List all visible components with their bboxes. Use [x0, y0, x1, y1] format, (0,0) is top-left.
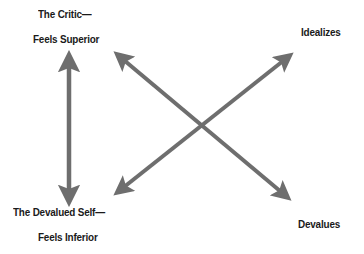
critic-label-line2: Feels Superior [33, 33, 99, 45]
devalued-self-label-line2: Feels Inferior [38, 231, 98, 243]
diagram-canvas: The Critic— Feels Superior Idealizes The… [0, 0, 364, 254]
devalued-self-label-line1: The Devalued Self— [13, 206, 105, 218]
devalues-label: Devalues [298, 218, 340, 230]
critic-label-line1: The Critic— [38, 8, 92, 20]
idealizes-label: Idealizes [301, 26, 341, 38]
